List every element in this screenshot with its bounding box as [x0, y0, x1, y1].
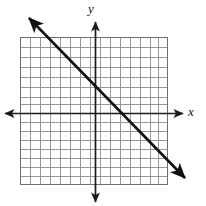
- graph-figure: y x: [0, 0, 206, 206]
- coordinate-plane-svg: [0, 0, 206, 206]
- y-axis-label: y: [88, 2, 94, 15]
- x-axis-label: x: [188, 105, 194, 118]
